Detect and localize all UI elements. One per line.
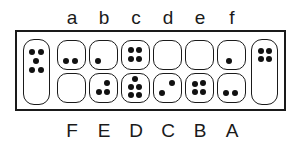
seed [226,58,232,64]
seed [29,67,35,73]
left-store [23,39,50,105]
pit-D[interactable] [121,73,150,103]
seed [258,48,264,54]
seed [266,56,272,62]
seed [38,67,44,73]
pit-A[interactable] [217,73,246,103]
column-label-A: A [217,121,247,140]
seed [33,58,39,64]
pit-c[interactable] [121,40,150,70]
seed [136,92,142,98]
seed [38,49,44,55]
right-store [251,39,278,105]
seed [132,76,138,82]
seed [128,84,134,90]
pit-d[interactable] [153,40,182,70]
seed [200,80,206,86]
column-label-F: F [57,121,87,140]
seed [192,89,198,95]
seed [128,92,134,98]
column-label-C: C [153,121,183,140]
seed [104,80,110,86]
pit-f[interactable] [217,40,246,70]
column-label-c: c [121,8,151,27]
seed [159,90,165,96]
seed [96,89,102,95]
mancala-board [15,30,286,111]
seed [29,49,35,55]
seed [266,48,272,54]
column-label-a: a [57,8,87,27]
seed [258,56,264,62]
seed [232,90,238,96]
seed [136,47,142,53]
column-label-b: b [89,8,119,27]
pit-F[interactable] [57,73,86,103]
column-label-e: e [185,8,215,27]
pit-B[interactable] [185,73,214,103]
seed [136,56,142,62]
pit-E[interactable] [89,73,118,103]
column-label-B: B [185,121,215,140]
seed [136,84,142,90]
pit-b[interactable] [89,40,118,70]
pit-C[interactable] [153,73,182,103]
column-label-d: d [153,8,183,27]
column-label-D: D [121,121,151,140]
pit-e[interactable] [185,40,214,70]
seed [169,80,175,86]
pit-a[interactable] [57,40,86,70]
seed [95,58,101,64]
column-label-E: E [89,121,119,140]
column-label-f: f [217,8,247,27]
seed [72,58,78,64]
seed [200,89,206,95]
seed [223,90,229,96]
seed [104,89,110,95]
seed [128,47,134,53]
seed [63,58,69,64]
seed [192,81,198,87]
seed [128,56,134,62]
